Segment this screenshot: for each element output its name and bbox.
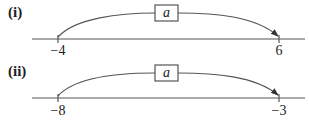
start-label: −8 (51, 103, 66, 118)
box-label: a (163, 5, 170, 20)
part-label: (ii) (8, 63, 26, 80)
arrow-right-icon (178, 13, 278, 36)
start-label: −4 (51, 43, 66, 58)
diagram-i: (i) a −4 6 (8, 4, 305, 58)
number-line-diagrams: (i) a −4 6 (ii) a −8 −3 (0, 0, 309, 121)
arc-left (58, 13, 155, 37)
diagram-ii: (ii) a −8 −3 (8, 63, 305, 118)
box-label: a (163, 65, 170, 80)
end-label: −3 (272, 103, 287, 118)
arrow-right-icon (178, 73, 278, 95)
arc-left (58, 73, 155, 96)
part-label: (i) (8, 4, 22, 21)
end-label: 6 (276, 43, 283, 58)
